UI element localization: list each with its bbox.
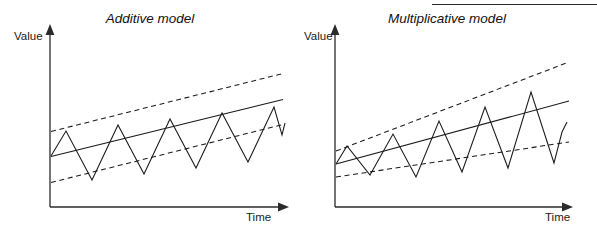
y-axis-arrow-additive — [46, 24, 55, 35]
y-axis-label-multiplicative: Value — [304, 31, 333, 43]
y-axis-label-additive: Value — [14, 31, 43, 43]
observed-series-multiplicative — [336, 92, 567, 177]
figure-root: Additive model Value Time Multiplicative… — [0, 0, 597, 247]
multiplicative-plot-svg — [297, 0, 597, 247]
panel-multiplicative-model: Multiplicative model Value Time — [297, 0, 597, 247]
lower-envelope-multiplicative — [336, 142, 569, 177]
panel-additive-model: Additive model Value Time — [0, 0, 300, 247]
upper-envelope-additive — [51, 74, 283, 132]
upper-envelope-multiplicative — [336, 62, 569, 151]
additive-plot-svg — [0, 0, 300, 247]
lower-envelope-additive — [51, 125, 283, 183]
panel-title-multiplicative: Multiplicative model — [297, 12, 597, 26]
x-axis-arrow-additive — [278, 203, 289, 212]
observed-series-additive — [51, 107, 285, 180]
x-axis-label-multiplicative: Time — [545, 212, 570, 224]
trend-line-multiplicative — [336, 101, 569, 164]
panel-title-additive: Additive model — [0, 12, 300, 26]
x-axis-label-additive: Time — [246, 212, 271, 224]
trend-line-additive — [51, 100, 283, 157]
